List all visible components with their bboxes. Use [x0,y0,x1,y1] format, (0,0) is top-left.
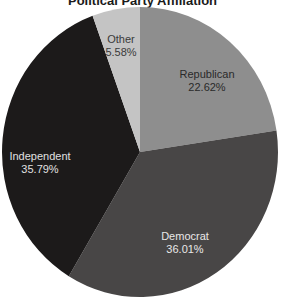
slice-label-value: 36.01% [166,243,204,255]
slice-label-name: Democrat [161,230,209,242]
slice-label-value: 35.79% [21,163,59,175]
slice-label-name: Independent [9,150,70,162]
slice-label-name: Other [107,33,135,45]
slice-label-value: 5.58% [105,46,136,58]
pie-chart: Republican 22.62% Democrat 36.01% Indepe… [0,0,285,302]
slice-label-value: 22.62% [188,81,226,93]
slice-label-name: Republican [179,68,234,80]
